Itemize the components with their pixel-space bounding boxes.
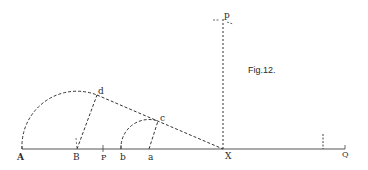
- label-p: p: [224, 10, 230, 20]
- line-B-d: [77, 95, 97, 149]
- p-crossmark-right: [227, 22, 233, 24]
- label-P: P: [101, 153, 107, 162]
- line-a-c: [149, 121, 158, 149]
- label-A: A: [16, 152, 25, 162]
- arc-A-d: [22, 91, 97, 149]
- label-d: d: [98, 86, 104, 96]
- label-a: a: [148, 152, 154, 162]
- tick-B-vertical: [76, 138, 77, 149]
- label-Q: Q: [342, 150, 349, 159]
- figure-12-diagram: A B P b a X Q d c p Fig.12.: [0, 0, 368, 170]
- label-b: b: [120, 152, 126, 162]
- figure-caption: Fig.12.: [248, 65, 276, 75]
- label-X: X: [225, 151, 232, 161]
- label-B: B: [73, 152, 80, 162]
- arc-b-c: [121, 120, 158, 149]
- label-c: c: [160, 113, 165, 123]
